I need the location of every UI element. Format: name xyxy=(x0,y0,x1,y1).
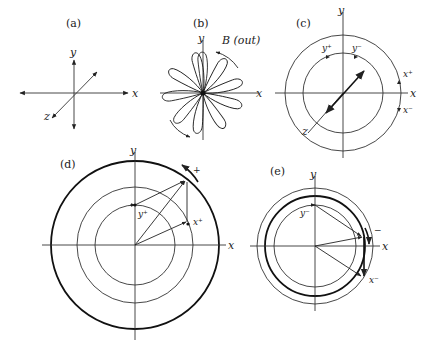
x-plus-vector xyxy=(135,222,186,245)
y-axis-label: y xyxy=(197,32,205,45)
y-plus-label: y⁺ xyxy=(321,43,332,53)
x-minus-label: x⁻ xyxy=(403,105,413,115)
y-minus-label: y⁻ xyxy=(299,208,310,218)
panel-b-label: (b) xyxy=(193,17,209,30)
x-axis-label: x xyxy=(382,240,389,253)
x-axis-label: x xyxy=(410,87,417,100)
spin-vector xyxy=(326,71,364,113)
panel-d: (d) x y y⁺ x⁺ + xyxy=(42,144,235,340)
y-axis-label: y xyxy=(309,168,317,181)
panel-a-label: (a) xyxy=(66,17,81,30)
total-vector xyxy=(315,237,362,246)
y-plus-label: y⁺ xyxy=(137,209,148,219)
panel-b: (b) x y B (out) xyxy=(160,17,263,140)
x-minus-label: x⁻ xyxy=(369,275,379,285)
y-minus-to-total-vector xyxy=(315,205,361,236)
y-plus-to-total-vector xyxy=(135,181,184,205)
z-axis-label: z xyxy=(301,125,308,138)
y-axis-label: y xyxy=(337,4,345,17)
x-axis-label: x xyxy=(132,87,139,100)
panel-e-label: (e) xyxy=(270,165,285,178)
panel-d-label: (d) xyxy=(60,158,76,171)
panel-c: (c) x y z y⁺ y⁻ x⁺ x⁻ xyxy=(275,4,417,158)
panel-c-label: (c) xyxy=(296,17,311,30)
field-label: B (out) xyxy=(221,34,260,47)
x-plus-label: x⁺ xyxy=(193,217,203,227)
rotation-sign: − xyxy=(374,225,382,235)
z-axis xyxy=(52,72,97,118)
figure-canvas: (a) x y z (b) x y B (out) xyxy=(0,0,430,354)
y-axis-label: y xyxy=(129,144,137,157)
panel-a: (a) x y z xyxy=(20,17,139,129)
panel-e: (e) x y y⁻ x⁻ − xyxy=(250,165,389,311)
y-minus-label: y⁻ xyxy=(351,43,362,53)
rotation-sign: + xyxy=(193,165,201,175)
x-axis-label: x xyxy=(256,87,263,100)
x-axis-label: x xyxy=(228,239,235,252)
z-axis-label: z xyxy=(43,110,50,123)
y-axis-label: y xyxy=(69,46,77,59)
x-plus-label: x⁺ xyxy=(403,69,413,79)
x-minus-vector xyxy=(315,246,361,276)
